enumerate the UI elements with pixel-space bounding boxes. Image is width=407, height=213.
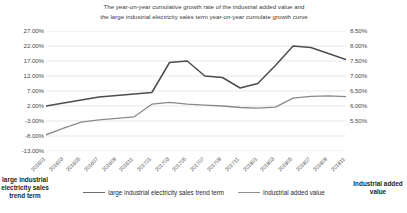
x-axis-tick-label: 201709 <box>206 156 223 173</box>
y-axis-left-tick-label: 17.00% <box>4 57 44 64</box>
x-axis-tick-label: 201803 <box>259 156 276 173</box>
y-axis-left-title: large industrial electricity sales trend… <box>1 176 49 201</box>
x-axis-tick-label: 201611 <box>118 156 134 172</box>
x-axis-tick-label: 201807 <box>294 156 311 173</box>
series-line <box>46 96 346 135</box>
y-axis-left-tick-label: 7.00% <box>4 87 44 94</box>
y-axis-left-tick-label: -13.00% <box>4 147 44 154</box>
y-axis-right-title: Industrial added value <box>352 180 404 196</box>
legend-label: large industrial electricity sales trend… <box>108 189 224 196</box>
x-axis-tick-label: 201603 <box>47 156 64 173</box>
x-axis-tick-label: 201801 <box>241 156 258 173</box>
legend-color-swatch <box>238 192 260 193</box>
x-axis-tick-label: 201811 <box>330 156 346 172</box>
y-axis-left-tick-label: 2.00% <box>4 102 44 109</box>
x-axis-tick-label: 201605 <box>65 156 82 173</box>
chart-container: The year-on-year cumulative growth rate … <box>0 0 407 213</box>
x-axis-tick-label: 201703 <box>153 156 170 173</box>
y-axis-left-tick-label: 22.00% <box>4 42 44 49</box>
chart-legend: large industrial electricity sales trend… <box>58 186 350 198</box>
x-axis-tick-label: 201711 <box>224 156 240 172</box>
x-axis-tick-label: 201705 <box>171 156 188 173</box>
x-axis-tick-label: 201609 <box>100 156 117 173</box>
y-axis-right-tick-label: 7.00% <box>350 72 390 79</box>
legend-item[interactable]: large industrial electricity sales trend… <box>83 189 224 196</box>
x-axis-tick-label: 201601 <box>30 156 47 173</box>
chart-title-line-2: the large industrial electricity sales t… <box>58 12 350 22</box>
y-axis-left-tick-label: 27.00% <box>4 27 44 34</box>
legend-item[interactable]: Industrial added value <box>238 189 325 196</box>
chart-title-line-1: The year-on-year cumulative growth rate … <box>58 2 350 12</box>
chart-title: The year-on-year cumulative growth rate … <box>58 2 350 21</box>
x-axis-tick-label: 201607 <box>83 156 100 173</box>
y-axis-right-tick-label: 6.50% <box>350 87 390 94</box>
y-axis-right-tick-label: 8.00% <box>350 42 390 49</box>
legend-color-swatch <box>83 192 105 193</box>
y-axis-right-tick-label: 8.50% <box>350 27 390 34</box>
plot-area <box>46 31 346 151</box>
x-axis-ticks: 2016012016032016052016072016092016112017… <box>46 152 346 180</box>
x-axis-tick-label: 201809 <box>312 156 329 173</box>
y-axis-left-tick-label: 12.00% <box>4 72 44 79</box>
y-axis-right-tick-label: 7.50% <box>350 57 390 64</box>
y-axis-left-tick-label: -3.00% <box>4 117 44 124</box>
x-axis-tick-label: 201707 <box>189 156 206 173</box>
y-axis-right-ticks: 8.50%8.00%7.50%7.00%6.50%6.00%5.50% <box>350 31 394 151</box>
plot-svg <box>46 31 346 151</box>
y-axis-right-tick-label: 5.50% <box>350 117 390 124</box>
x-axis-tick-label: 201701 <box>136 156 153 173</box>
y-axis-left-ticks: 27.00%22.00%17.00%12.00%7.00%2.00%-3.00%… <box>0 31 44 151</box>
y-axis-left-tick-label: -8.00% <box>4 132 44 139</box>
y-axis-right-tick-label: 6.00% <box>350 102 390 109</box>
legend-label: Industrial added value <box>263 189 325 196</box>
x-axis-tick-label: 201805 <box>277 156 294 173</box>
